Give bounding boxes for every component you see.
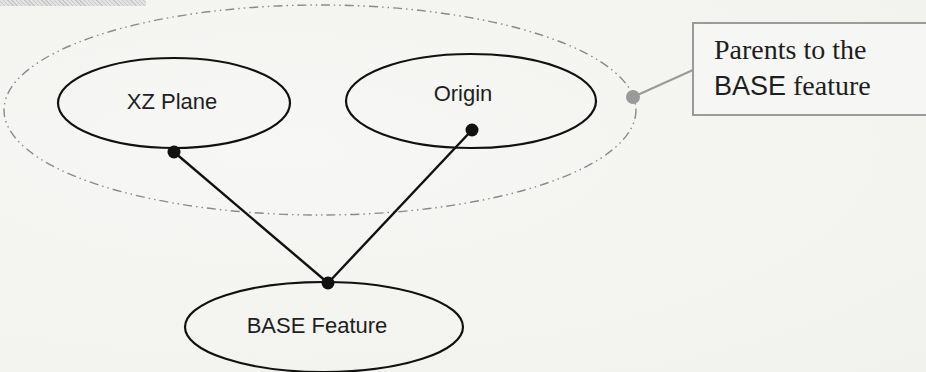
node-label-origin: Origin <box>434 81 493 107</box>
node-label-xz-plane: XZ Plane <box>127 89 218 115</box>
callout-text-line2: BASE feature <box>714 68 926 108</box>
parents-group-outline <box>4 5 636 215</box>
callout-box: Parents to the BASE feature <box>692 22 926 116</box>
callout-leader-line <box>633 70 693 97</box>
callout-text-base: BASE <box>714 71 786 101</box>
connector-dot-xz-plane <box>168 146 181 159</box>
connector-dot-base <box>322 277 335 290</box>
callout-anchor-dot <box>626 90 640 104</box>
callout-text-feature: feature <box>786 70 871 101</box>
edge-xz-plane-to-base <box>174 152 328 283</box>
edge-origin-to-base <box>328 130 472 283</box>
node-label-base-feature: BASE Feature <box>247 313 388 339</box>
diagram-canvas: XZ Plane Origin BASE Feature Parents to … <box>0 0 926 372</box>
callout-text-line1: Parents to the <box>714 32 926 68</box>
connector-dot-origin <box>466 124 479 137</box>
